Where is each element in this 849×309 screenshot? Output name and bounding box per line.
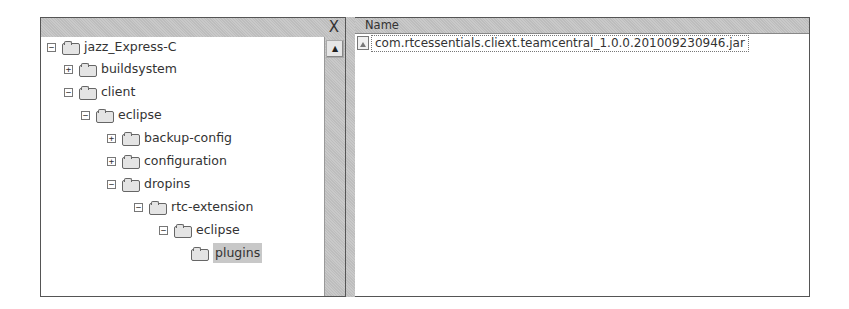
folder-icon (96, 109, 113, 122)
folder-icon (122, 132, 139, 145)
expand-icon[interactable]: + (64, 65, 73, 74)
tree-node-jazz-express-c[interactable]: − jazz_Express-C (47, 37, 177, 57)
folder-icon (122, 155, 139, 168)
pane-splitter[interactable] (346, 17, 355, 297)
tree-node-label: configuration (144, 151, 227, 171)
collapse-icon[interactable]: − (64, 88, 73, 97)
folder-icon (79, 63, 96, 76)
tree-node-plugins[interactable]: plugins (191, 243, 262, 263)
folder-icon (62, 41, 79, 54)
file-name: com.rtcessentials.cliext.teamcentral_1.0… (371, 35, 749, 52)
folder-icon (122, 178, 139, 191)
tree-node-configuration[interactable]: + configuration (107, 151, 227, 171)
tree-node-label: client (101, 82, 135, 102)
collapse-icon[interactable]: − (134, 203, 143, 212)
folder-tree-pane: X − jazz_Express-C + buildsystem − clien… (40, 17, 346, 297)
tree-node-label: eclipse (196, 220, 240, 240)
jar-file-icon (357, 36, 369, 50)
vertical-scrollbar[interactable]: ▲ (324, 37, 345, 296)
tree-node-label: buildsystem (101, 59, 177, 79)
collapse-icon[interactable]: − (159, 226, 168, 235)
collapse-icon[interactable]: − (107, 180, 116, 189)
folder-open-icon (191, 247, 208, 260)
tree-node-eclipse-nested[interactable]: − eclipse (159, 220, 240, 240)
tree-node-label: rtc-extension (171, 197, 253, 217)
tree-node-dropins[interactable]: − dropins (107, 174, 190, 194)
tree-node-buildsystem[interactable]: + buildsystem (64, 59, 177, 79)
folder-icon (174, 224, 191, 237)
file-list-item[interactable]: com.rtcessentials.cliext.teamcentral_1.0… (357, 34, 749, 52)
folder-tree: − jazz_Express-C + buildsystem − client … (41, 37, 325, 296)
tree-node-label-selected: plugins (213, 243, 262, 263)
tree-node-eclipse[interactable]: − eclipse (81, 105, 162, 125)
tree-node-backup-config[interactable]: + backup-config (107, 128, 232, 148)
expand-icon[interactable]: + (107, 157, 116, 166)
tree-node-label: eclipse (118, 105, 162, 125)
tree-node-label: dropins (144, 174, 190, 194)
tree-node-client[interactable]: − client (64, 82, 135, 102)
tree-node-rtc-extension[interactable]: − rtc-extension (134, 197, 253, 217)
column-header-name[interactable]: Name (355, 18, 809, 34)
close-icon[interactable]: X (329, 19, 339, 36)
tree-node-label: backup-config (144, 128, 232, 148)
folder-icon (149, 201, 166, 214)
scroll-up-arrow-icon[interactable]: ▲ (326, 40, 344, 58)
folder-icon (79, 86, 96, 99)
expand-icon[interactable]: + (107, 134, 116, 143)
file-list-pane: Name com.rtcessentials.cliext.teamcentra… (355, 17, 810, 297)
pane-title-bar: X (41, 18, 345, 38)
collapse-icon[interactable]: − (81, 111, 90, 120)
tree-node-label: jazz_Express-C (84, 37, 177, 57)
collapse-icon[interactable]: − (47, 43, 56, 52)
